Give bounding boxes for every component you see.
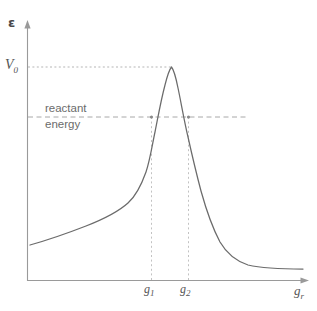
v0-label-base: V	[5, 57, 14, 72]
x-axis-label-subscript: r	[301, 291, 305, 301]
v0-label-subscript: 0	[14, 65, 19, 75]
reactant-energy-annotation: reactant energy	[45, 101, 87, 132]
y-axis-label: ε	[8, 16, 15, 29]
y-axis-arrowhead	[24, 20, 30, 29]
tick-label-g2: g2	[180, 283, 191, 298]
tick-label-g1-subscript: 1	[150, 288, 155, 298]
x-axis-label: gr	[294, 284, 304, 301]
tick-label-g1: g1	[144, 283, 155, 298]
g1-intersection-marker	[150, 115, 153, 118]
plot-canvas	[0, 0, 317, 311]
energy-curve	[30, 67, 303, 269]
y-axis	[24, 20, 30, 281]
energy-barrier-figure: ε V0 reactant energy g1 g2 gr	[0, 0, 317, 311]
g2-intersection-marker	[187, 115, 190, 118]
tick-label-g2-subscript: 2	[186, 288, 191, 298]
v0-label: V0	[5, 58, 18, 75]
x-axis	[27, 277, 309, 283]
x-axis-arrowhead	[301, 277, 310, 283]
